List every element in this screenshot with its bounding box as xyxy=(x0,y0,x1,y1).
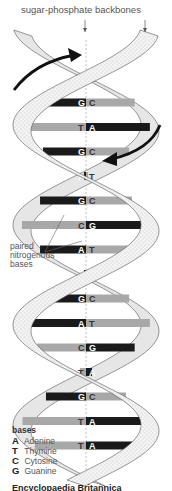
base-letter-left: G xyxy=(78,147,85,157)
base-pair: CG xyxy=(22,221,150,231)
base-letter-right: T xyxy=(89,319,95,329)
base-letter-right: G xyxy=(89,343,96,353)
base-letter-right: G xyxy=(89,221,96,231)
base-pair: AT xyxy=(22,319,150,329)
legend-item-adenine: A Adenine xyxy=(12,436,57,446)
bases-legend: bases A Adenine T Thymine C Cytosine G G… xyxy=(12,425,57,476)
base-bar-right xyxy=(86,319,150,327)
base-letter-left: C xyxy=(78,343,85,353)
base-letter-left: A xyxy=(78,319,85,329)
dna-double-helix-diagram: GCGCTAGCATGCCGATATGCATCGTAGCTATA sugar-p… xyxy=(0,0,172,491)
base-letter-right: C xyxy=(89,294,96,304)
base-letter-left: G xyxy=(78,98,85,108)
base-letter-left: T xyxy=(78,441,84,451)
legend-title: bases xyxy=(12,425,57,435)
legend-name: Adenine xyxy=(24,436,55,446)
base-letter-right: C xyxy=(89,98,96,108)
backbones-label: sugar-phosphate backbones xyxy=(21,5,141,15)
base-pair: CG xyxy=(37,343,134,353)
base-letter-left: G xyxy=(78,196,85,206)
base-letter-right: A xyxy=(89,441,96,451)
paired-bases-label: paired nitrogenous bases xyxy=(10,242,70,269)
strand-direction-arrowhead-up xyxy=(68,48,82,62)
base-letter-right: A xyxy=(89,123,96,133)
base-letter-right: T xyxy=(89,245,95,255)
legend-letter: G xyxy=(12,466,22,476)
base-bar-left xyxy=(22,221,86,229)
legend-name: Thymine xyxy=(24,446,57,456)
base-letter-left: A xyxy=(78,245,85,255)
base-letter-right: C xyxy=(89,147,96,157)
base-letter-right: A xyxy=(89,368,96,378)
base-letter-right: C xyxy=(89,392,96,402)
base-bar-right xyxy=(86,123,150,131)
base-letter-left: G xyxy=(78,294,85,304)
base-letter-left: G xyxy=(78,392,85,402)
legend-item-guanine: G Guanine xyxy=(12,466,57,476)
base-letter-left: T xyxy=(78,123,84,133)
base-letter-right: A xyxy=(89,417,96,427)
caption: Encyclopaedia Britannica xyxy=(12,483,122,491)
base-letter-left: C xyxy=(78,221,85,231)
base-letter-right: C xyxy=(89,196,96,206)
base-pair: TA xyxy=(22,123,150,133)
legend-name: Guanine xyxy=(24,466,56,476)
base-letter-left: T xyxy=(78,417,84,427)
base-bar-left xyxy=(23,417,86,425)
backbone-pointer-left-head xyxy=(83,28,87,32)
legend-name: Cytosine xyxy=(24,456,57,466)
